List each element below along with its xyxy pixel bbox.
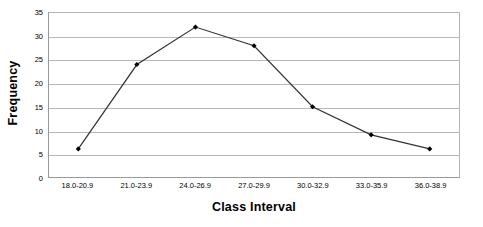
x-axis-tick-label: 18.0-20.9 (62, 181, 94, 190)
y-axis-tick-label: 20 (35, 79, 43, 88)
y-axis-tick-label: 35 (35, 8, 43, 17)
x-axis-tick-label: 27.0-29.9 (238, 181, 270, 190)
frequency-polygon-chart: Frequency 05101520253035 18.0-20.921.0-2… (0, 0, 483, 227)
y-axis-title-text: Frequency (5, 60, 19, 125)
y-axis-tick-label: 15 (35, 102, 43, 111)
y-axis-tick-labels: 05101520253035 (24, 12, 46, 178)
x-axis-tick-label: 24.0-26.9 (179, 181, 211, 190)
y-axis-tick-label: 25 (35, 55, 43, 64)
x-axis-tick-label: 21.0-23.9 (120, 181, 152, 190)
series-line-frequency (49, 13, 459, 177)
data-point-marker (427, 146, 432, 151)
y-axis-tick-label: 10 (35, 126, 43, 135)
x-axis-tick-label: 33.0-35.9 (356, 181, 388, 190)
y-axis-title: Frequency (0, 0, 24, 185)
x-axis-title: Class Interval (48, 200, 460, 214)
data-point-marker (369, 132, 374, 137)
y-axis-tick-label: 0 (39, 174, 43, 183)
y-axis-tick-label: 5 (39, 150, 43, 159)
x-axis-tick-labels: 18.0-20.921.0-23.924.0-26.927.0-29.930.0… (48, 181, 460, 195)
plot-area (48, 12, 460, 178)
x-axis-tick-label: 36.0-38.9 (415, 181, 447, 190)
x-axis-tick-label: 30.0-32.9 (297, 181, 329, 190)
y-axis-tick-label: 30 (35, 31, 43, 40)
